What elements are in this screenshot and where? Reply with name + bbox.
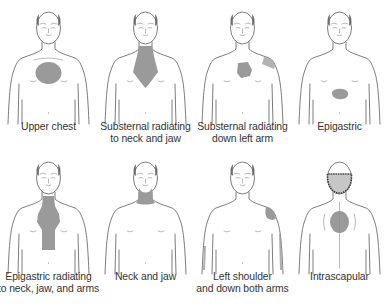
pain-region-substernal-neck-icon: [133, 46, 158, 88]
pain-region-epigastric-neck-icon: [37, 196, 60, 250]
front-torso-figure: [194, 0, 291, 124]
body-outline-icon: [105, 162, 186, 274]
front-torso-figure: [97, 0, 194, 124]
caption: Epigastric: [283, 121, 388, 133]
body-outline-icon: [299, 12, 380, 124]
angina-pain-locations-diagram: Upper chest Substernal radiating to neck: [0, 0, 388, 308]
front-torso-figure: [0, 150, 97, 274]
panel-upper-chest: Upper chest: [0, 0, 97, 154]
panel-epigastric-neck-jaw-arms: Epigastric radiating to neck, jaw, and a…: [0, 150, 97, 304]
panel-intrascapular: Intrascapular: [291, 150, 388, 304]
panel-left-shoulder-both-arms: Left shoulder and down both arms: [194, 150, 291, 304]
front-torso-figure: [97, 150, 194, 274]
pain-region-epigastric-icon: [332, 89, 348, 99]
caption: Intrascapular: [283, 271, 388, 283]
pain-region-left-shoulder-icon: [265, 207, 276, 220]
front-torso-figure: [291, 0, 388, 124]
front-torso-figure: [0, 0, 97, 124]
panel-substernal-left-arm: Substernal radiating down left arm: [194, 0, 291, 154]
pain-region-upper-chest-icon: [36, 62, 62, 84]
front-torso-figure: [194, 150, 291, 274]
panel-neck-jaw: Neck and jaw: [97, 150, 194, 304]
pain-region-substernal-icon: [237, 62, 252, 78]
panel-substernal-neck-jaw: Substernal radiating to neck and jaw: [97, 0, 194, 154]
panel-epigastric: Epigastric: [291, 0, 388, 154]
back-torso-figure: [291, 150, 388, 274]
pain-region-left-shoulder-icon: [262, 57, 275, 69]
